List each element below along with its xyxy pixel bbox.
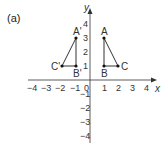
x-tick-label: 4 xyxy=(144,84,149,93)
x-tick-label: −1 xyxy=(70,84,80,93)
x-axis-label: x xyxy=(155,84,160,93)
x-tick-label: −4 xyxy=(27,84,37,93)
triangle-a-prime-b-prime-c-prime xyxy=(62,38,76,66)
x-tick-label: −2 xyxy=(55,84,65,93)
x-tick-label: 3 xyxy=(130,84,135,93)
x-axis-arrow-icon xyxy=(151,78,157,83)
y-axis-label: y xyxy=(84,3,89,12)
y-tick-label: −1 xyxy=(80,90,90,99)
y-tick-label: 1 xyxy=(83,62,88,71)
triangle-abc xyxy=(104,38,118,66)
y-tick-label: −4 xyxy=(80,132,90,141)
point-c-prime xyxy=(60,64,63,67)
vertex-label-c-prime: C' xyxy=(51,62,60,71)
vertex-label-a-prime: A' xyxy=(73,27,82,36)
y-tick-label: 4 xyxy=(83,20,88,29)
point-c xyxy=(116,64,119,67)
y-tick-label: 2 xyxy=(83,48,88,57)
x-tick-label: 2 xyxy=(116,84,121,93)
x-tick-label: −3 xyxy=(41,84,51,93)
y-tick-label: −3 xyxy=(80,118,90,127)
vertex-label-b: B xyxy=(101,69,108,78)
y-tick-label: 3 xyxy=(83,34,88,43)
part-label: (a) xyxy=(7,14,20,23)
vertex-label-c: C xyxy=(121,62,128,71)
vertex-label-a: A xyxy=(101,27,108,36)
x-tick-label: 1 xyxy=(102,84,107,93)
vertex-label-b-prime: B' xyxy=(73,69,82,78)
y-tick-label: −2 xyxy=(80,104,90,113)
